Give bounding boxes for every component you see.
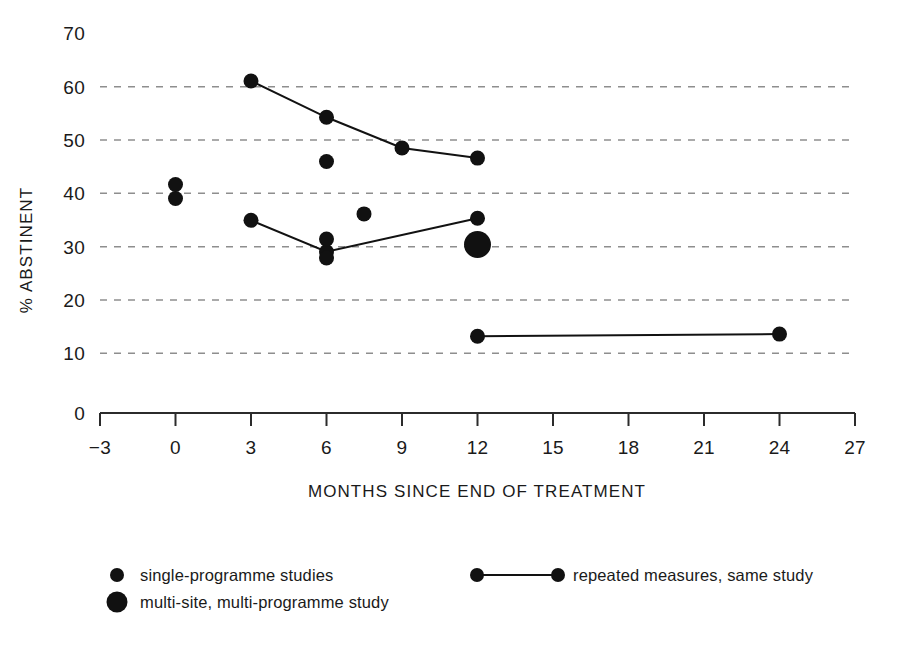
legend-marker-dot-right	[551, 568, 565, 582]
y-tick-label-50: 50	[63, 130, 85, 151]
x-tick-label-24: 24	[769, 437, 791, 458]
chart-svg: 70 60 50 40 30 20 10 0 −3 0	[0, 0, 899, 646]
data-point	[470, 211, 485, 226]
y-tick-label-70: 70	[63, 23, 85, 44]
y-axis-title: % ABSTINENT	[17, 187, 36, 313]
y-tick-label-60: 60	[63, 77, 85, 98]
legend-label-single-programme: single-programme studies	[140, 566, 333, 584]
y-tick-label-10: 10	[63, 343, 85, 364]
x-tick-label-6: 6	[321, 437, 332, 458]
x-tick-label-18: 18	[618, 437, 640, 458]
chart-figure: 70 60 50 40 30 20 10 0 −3 0	[0, 0, 899, 646]
data-point	[168, 191, 183, 206]
y-tick-label-0: 0	[74, 403, 85, 424]
x-tick-label-21: 21	[693, 437, 715, 458]
legend-marker-small-dot	[110, 568, 124, 582]
data-point	[168, 177, 183, 192]
data-point	[470, 329, 485, 344]
x-tick-label--3: −3	[89, 437, 111, 458]
y-tick-label-20: 20	[63, 290, 85, 311]
data-point	[244, 74, 259, 89]
repeated-measures-line-upper	[251, 81, 478, 158]
y-axis-tick-labels: 70 60 50 40 30 20 10 0	[63, 23, 85, 424]
x-tick-label-9: 9	[397, 437, 408, 458]
x-tick-label-3: 3	[246, 437, 257, 458]
x-tick-label-12: 12	[467, 437, 489, 458]
data-points	[168, 74, 787, 344]
x-axis	[100, 413, 855, 426]
legend-marker-dot-left	[470, 568, 484, 582]
data-point	[319, 110, 334, 125]
y-tick-label-40: 40	[63, 183, 85, 204]
data-point	[470, 151, 485, 166]
data-point	[357, 206, 372, 221]
data-point	[395, 141, 410, 156]
data-point-multi-site	[464, 231, 491, 258]
x-axis-title: MONTHS SINCE END OF TREATMENT	[308, 482, 646, 501]
repeated-measures-line-lower	[478, 334, 780, 336]
x-tick-label-0: 0	[170, 437, 181, 458]
data-point	[244, 213, 259, 228]
x-tick-label-27: 27	[844, 437, 866, 458]
data-point	[319, 251, 334, 266]
x-tick-label-15: 15	[542, 437, 564, 458]
data-point	[319, 232, 334, 247]
chart-legend: single-programme studies multi-site, mul…	[107, 566, 814, 613]
legend-label-multi-site: multi-site, multi-programme study	[140, 593, 389, 611]
legend-marker-large-dot	[107, 592, 128, 613]
legend-label-repeated-measures: repeated measures, same study	[573, 566, 814, 584]
data-point	[319, 154, 334, 169]
legend-marker-dot-line-dot	[470, 568, 565, 582]
y-tick-label-30: 30	[63, 237, 85, 258]
x-axis-tick-labels: −3 0 3 6 9 12 15 18 21 24 27	[89, 437, 866, 458]
data-point	[772, 327, 787, 342]
